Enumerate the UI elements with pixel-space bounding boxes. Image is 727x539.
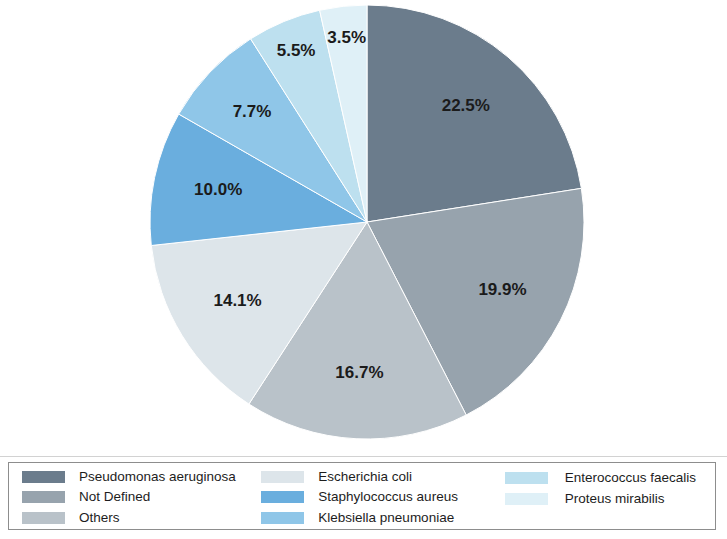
pie-slice-label: 19.9% [478,280,526,299]
legend-item[interactable]: Proteus mirabilis [505,489,715,508]
pie-slice-label: 10.0% [194,180,242,199]
pie-slice-label: 16.7% [335,363,383,382]
legend-column: Pseudomonas aeruginosaNot DefinedOthers [9,468,253,529]
legend-color-swatch [22,512,65,524]
legend-color-swatch [505,472,548,484]
legend-label: Others [79,510,120,526]
legend-item[interactable]: Klebsiella pneumoniae [261,509,494,527]
scan-artifact-line [0,456,727,457]
pie-chart-area: 22.5%19.9%16.7%14.1%10.0%7.7%5.5%3.5% [0,0,727,462]
legend-item[interactable]: Escherichia coli [261,468,494,486]
legend-item[interactable]: Enterococcus faecalis [505,468,715,487]
chart-legend: Pseudomonas aeruginosaNot DefinedOthersE… [8,462,716,530]
legend-label: Not Defined [79,489,150,505]
pie-slice-label: 3.5% [327,28,366,47]
legend-label: Staphylococcus aureus [318,489,458,505]
legend-item[interactable]: Pseudomonas aeruginosa [22,468,253,486]
pie-chart: 22.5%19.9%16.7%14.1%10.0%7.7%5.5%3.5% [0,0,727,462]
pie-slice-label: 7.7% [233,102,272,121]
pie-slice-label: 22.5% [442,96,490,115]
pie-slice-label: 14.1% [213,291,261,310]
legend-label: Proteus mirabilis [565,491,665,507]
legend-color-swatch [22,471,65,483]
legend-item[interactable]: Not Defined [22,488,253,506]
legend-label: Escherichia coli [318,469,412,485]
legend-item[interactable]: Staphylococcus aureus [261,488,494,506]
legend-column: Escherichia coliStaphylococcus aureusKle… [253,468,494,529]
pie-slice-label: 5.5% [277,41,316,60]
legend-color-swatch [505,493,548,505]
legend-item[interactable]: Others [22,509,253,527]
legend-columns: Pseudomonas aeruginosaNot DefinedOthersE… [9,468,715,529]
legend-color-swatch [261,512,304,524]
legend-column: Enterococcus faecalisProteus mirabilis [495,468,715,529]
legend-label: Klebsiella pneumoniae [318,510,454,526]
legend-label: Pseudomonas aeruginosa [79,469,236,485]
legend-color-swatch [261,471,304,483]
legend-label: Enterococcus faecalis [565,470,696,486]
legend-color-swatch [261,491,304,503]
legend-color-swatch [22,491,65,503]
